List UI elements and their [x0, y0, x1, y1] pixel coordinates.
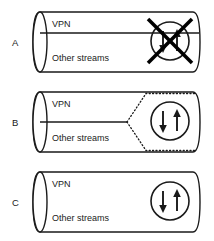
panel-c-label: C: [12, 197, 19, 208]
panel-b-bottom-label: Other streams: [52, 133, 110, 143]
schematic-figure: A VPN Other streams: [0, 0, 214, 241]
panel-a-label: A: [12, 37, 19, 48]
panel-c: C VPN Other streams: [12, 172, 200, 232]
panel-c-bottom-label: Other streams: [52, 213, 110, 223]
panel-a-bottom-label: Other streams: [52, 53, 110, 63]
panel-a-left-cap: [33, 12, 47, 72]
panel-c-left-cap: [33, 172, 47, 232]
diagram-root: A VPN Other streams: [0, 0, 214, 241]
panel-b-label: B: [12, 117, 18, 128]
panel-a-top-label: VPN: [52, 19, 71, 29]
panel-b-top-label: VPN: [52, 99, 71, 109]
panel-c-top-label: VPN: [52, 179, 71, 189]
panel-b: B VPN Other streams: [12, 92, 200, 152]
panel-a: A VPN Other streams: [12, 12, 200, 72]
